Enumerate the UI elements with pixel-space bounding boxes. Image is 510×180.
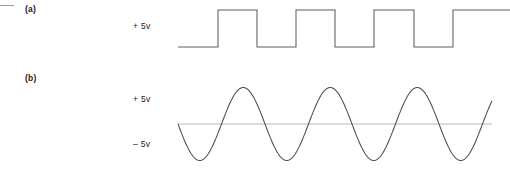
square-wave-trace (178, 10, 510, 47)
waveform-canvas (0, 0, 510, 180)
waveform-figure: (a) (b) + 5v + 5v – 5v (0, 0, 510, 180)
